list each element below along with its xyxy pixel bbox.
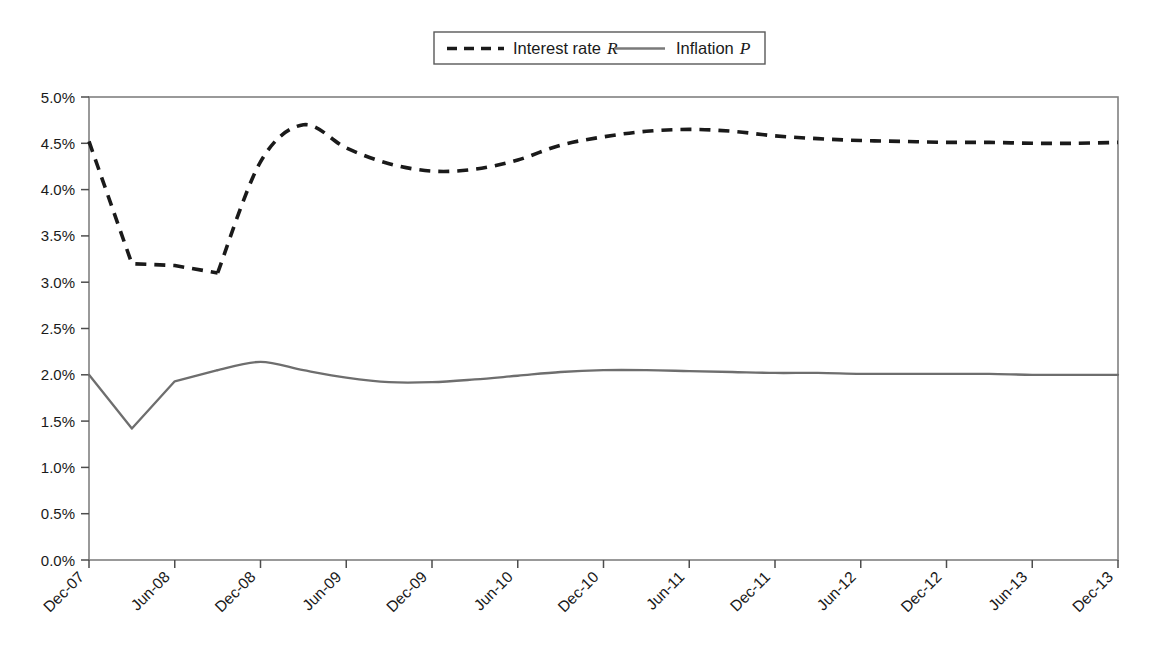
chart-legend: Interest rate R Inflation P — [434, 32, 765, 64]
x-axis-tick-label: Dec-13 — [1069, 568, 1116, 615]
y-axis-tick-label: 2.0% — [41, 366, 75, 383]
x-axis-ticks — [89, 560, 1118, 568]
x-axis-tick-label: Jun-11 — [643, 568, 688, 613]
y-axis-tick-label: 1.0% — [41, 459, 75, 476]
y-axis-tick-label: 3.0% — [41, 274, 75, 291]
y-axis-tick-label: 0.5% — [41, 505, 75, 522]
x-axis-tick-label: Dec-10 — [554, 568, 602, 616]
y-axis-tick-labels: 0.0%0.5%1.0%1.5%2.0%2.5%3.0%3.5%4.0%4.5%… — [41, 89, 75, 569]
x-axis-tick-labels: Dec-07Jun-08Dec-08Jun-09Dec-09Jun-10Dec-… — [40, 568, 1116, 616]
legend-label-inflation: Inflation — [676, 39, 734, 57]
line-chart: 0.0%0.5%1.0%1.5%2.0%2.5%3.0%3.5%4.0%4.5%… — [0, 0, 1149, 655]
y-axis-tick-label: 2.5% — [41, 320, 75, 337]
x-axis-tick-label: Jun-13 — [985, 568, 1031, 614]
legend-symbol-inflation: P — [739, 38, 751, 58]
y-axis-tick-label: 1.5% — [41, 413, 75, 430]
x-axis-tick-label: Dec-12 — [897, 568, 944, 615]
y-axis-tick-label: 0.0% — [41, 552, 75, 569]
y-axis-tick-label: 5.0% — [41, 89, 75, 106]
x-axis-tick-label: Jun-10 — [470, 568, 516, 614]
x-axis-tick-label: Dec-08 — [211, 568, 258, 615]
figure-container: 0.0%0.5%1.0%1.5%2.0%2.5%3.0%3.5%4.0%4.5%… — [0, 0, 1149, 655]
x-axis-tick-label: Dec-07 — [40, 568, 87, 615]
y-axis-ticks — [81, 97, 89, 560]
plot-area-border — [89, 97, 1118, 560]
x-axis-tick-label: Jun-08 — [127, 568, 173, 614]
x-axis-tick-label: Jun-12 — [813, 568, 859, 614]
y-axis-tick-label: 3.5% — [41, 227, 75, 244]
y-axis-tick-label: 4.0% — [41, 181, 75, 198]
x-axis-tick-label: Dec-09 — [383, 568, 430, 615]
y-axis-tick-label: 4.5% — [41, 135, 75, 152]
x-axis-tick-label: Dec-11 — [727, 568, 774, 615]
x-axis-tick-label: Jun-09 — [299, 568, 345, 614]
legend-label-interest-rate: Interest rate — [513, 39, 601, 57]
